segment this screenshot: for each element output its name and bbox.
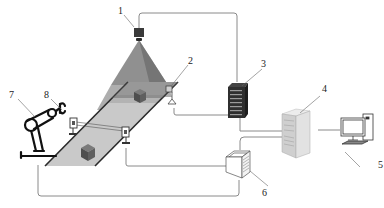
camera-device	[134, 28, 144, 41]
line-robot-to-controller	[38, 165, 239, 196]
line-controller-to-server	[240, 137, 282, 150]
label-7: 7	[9, 89, 14, 100]
component-labels: 1 2 3 4 5 6 7 8	[9, 5, 383, 198]
label-4: 4	[322, 83, 327, 94]
line-sensor-to-rack	[174, 108, 228, 115]
system-diagram: 1 2 3 4 5 6 7 8	[0, 0, 384, 208]
network-rack	[228, 83, 248, 118]
line-sensor2-to-controller	[126, 148, 227, 166]
sensor-right	[122, 127, 130, 144]
label-3: 3	[261, 58, 266, 69]
label-2: 2	[188, 55, 193, 66]
controller-cabinet	[226, 151, 250, 178]
connection-lines	[38, 13, 340, 196]
line-rack-to-server	[240, 117, 282, 131]
sensor-left	[69, 118, 77, 135]
robot-arm	[21, 109, 56, 158]
label-5: 5	[378, 159, 383, 170]
package-box-upper	[134, 89, 146, 103]
personal-computer	[341, 114, 373, 144]
label-1: 1	[118, 5, 123, 16]
server-tower	[282, 109, 310, 158]
label-6: 6	[262, 187, 267, 198]
label-8: 8	[44, 89, 49, 100]
